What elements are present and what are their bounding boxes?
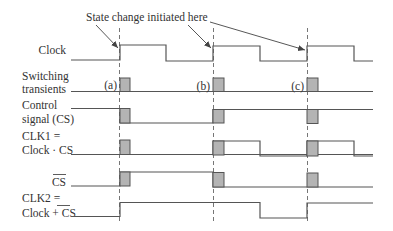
transient-b [213,78,224,92]
annotation-text: State change initiated here [86,11,208,24]
marker-b: (b) [197,80,211,93]
waveform-clk1-pulses [213,141,373,156]
transient-c [307,78,318,92]
label-clock: Clock [39,44,67,56]
clk1-transient-a [120,140,130,155]
waveform-clock [71,45,373,61]
label-control-1: Control [22,99,57,111]
label-switching-2: transients [22,83,67,95]
label-clk1-1: CLK1 = [22,130,60,142]
label-csbar: CS [52,176,66,188]
timing-diagram: State change initiated here Clock Switch… [0,0,393,231]
cs-transient-a [120,109,130,124]
clk1-transient-b [213,141,224,155]
cs-transient-c [307,110,318,124]
waveform-clk2 [71,203,373,219]
csbar-transient-b [213,173,224,188]
marker-c: (c) [291,80,304,93]
csbar-transient-c [307,173,318,187]
transient-a [120,78,130,92]
label-clk1-2: Clock · CS [22,144,73,156]
label-clk2-2: Clock + CS [22,207,76,219]
label-switching-1: Switching [22,70,69,83]
label-clk2-1: CLK2 = [22,192,60,204]
cs-transient-b [213,110,224,124]
label-control-2: signal (CS) [22,113,74,126]
csbar-transient-a [120,172,130,186]
clk1-transient-c [307,141,318,156]
arrow-b [188,25,211,48]
arrow-a [96,25,118,48]
marker-a: (a) [104,79,117,92]
